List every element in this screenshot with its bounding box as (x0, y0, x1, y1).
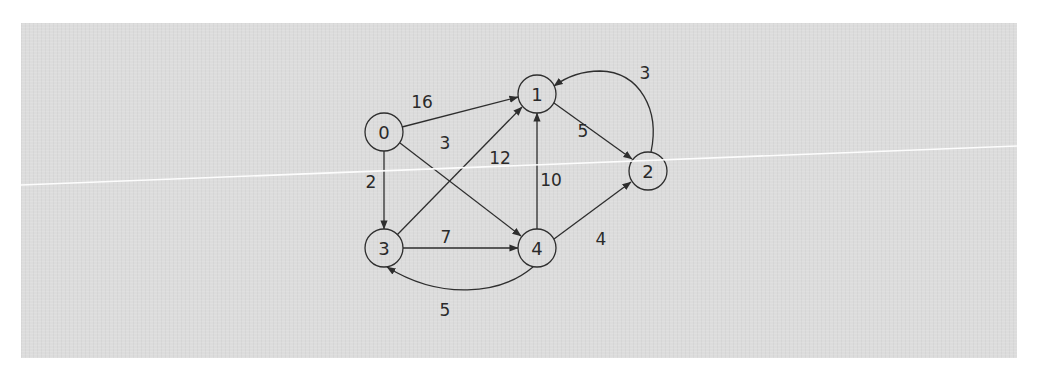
edge-label-4-1: 10 (540, 170, 562, 190)
graph-node-3: 3 (365, 229, 403, 267)
graph-canvas: 16 3 2 12 7 10 5 3 4 5 0 1 2 3 4 (0, 0, 1041, 379)
node-label-4: 4 (531, 238, 542, 259)
edge-label-3-1: 12 (489, 148, 511, 168)
edge-label-4-2: 4 (596, 229, 607, 249)
node-label-2: 2 (642, 161, 653, 182)
node-label-0: 0 (378, 122, 389, 143)
edge-label-0-4: 3 (440, 133, 451, 153)
edge-label-2-1: 3 (640, 63, 651, 83)
graph-node-4: 4 (518, 229, 556, 267)
node-label-3: 3 (378, 238, 389, 259)
graph-node-1: 1 (518, 75, 556, 113)
edge-label-0-3: 2 (366, 172, 377, 192)
edge-2-to-1 (554, 71, 653, 152)
edge-label-1-2: 5 (578, 121, 589, 141)
graph-node-2: 2 (629, 152, 667, 190)
node-label-1: 1 (531, 84, 542, 105)
edge-label-4-3: 5 (440, 300, 451, 320)
edge-4-to-2 (554, 182, 631, 239)
edge-label-3-4: 7 (441, 227, 452, 247)
edge-4-to-3 (387, 267, 533, 290)
edge-1-to-2 (554, 103, 632, 159)
scan-artifact-line (21, 146, 1017, 185)
graph-node-0: 0 (365, 113, 403, 151)
edge-3-to-1 (397, 107, 522, 235)
edge-label-0-1: 16 (411, 92, 433, 112)
